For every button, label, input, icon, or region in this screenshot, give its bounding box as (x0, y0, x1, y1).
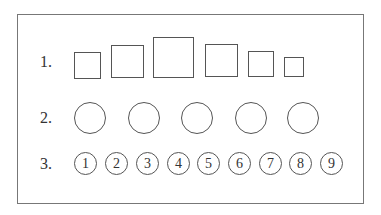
circle-5 (287, 102, 319, 134)
circle-2 (128, 102, 160, 134)
numbered-circle-6: 6 (228, 152, 251, 175)
circle-4 (235, 102, 267, 134)
circle-number: 1 (82, 157, 89, 171)
row-1-label: 1. (40, 54, 52, 70)
square-5 (248, 51, 274, 77)
circle-number: 5 (205, 157, 212, 171)
numbered-circle-5: 5 (197, 152, 220, 175)
row-2-label: 2. (40, 110, 52, 126)
circle-number: 4 (175, 157, 182, 171)
numbered-circle-1: 1 (74, 152, 97, 175)
numbered-circle-8: 8 (289, 152, 312, 175)
square-4 (205, 44, 238, 77)
circle-number: 7 (267, 157, 274, 171)
numbered-circle-4: 4 (167, 152, 190, 175)
square-3 (153, 37, 194, 78)
numbered-circle-2: 2 (105, 152, 128, 175)
circle-1 (74, 102, 106, 134)
numbered-circle-7: 7 (259, 152, 282, 175)
numbered-circle-9: 9 (320, 152, 343, 175)
square-1 (74, 52, 101, 79)
square-6 (284, 57, 304, 77)
circle-number: 2 (113, 157, 120, 171)
circle-number: 9 (328, 157, 335, 171)
circle-number: 8 (297, 157, 304, 171)
circle-3 (181, 102, 213, 134)
circle-number: 6 (236, 157, 243, 171)
square-2 (111, 45, 144, 78)
row-3-label: 3. (40, 156, 52, 172)
circle-number: 3 (144, 157, 151, 171)
numbered-circle-3: 3 (136, 152, 159, 175)
